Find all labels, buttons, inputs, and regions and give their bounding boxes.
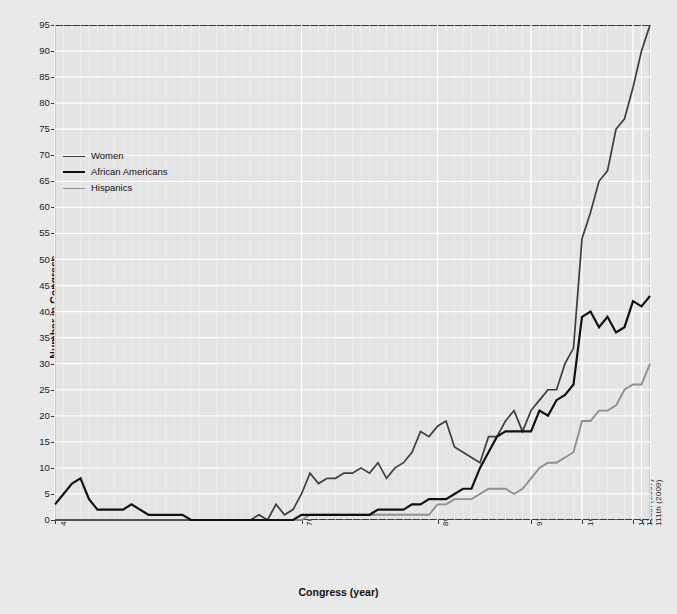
legend-swatch-icon: [63, 188, 85, 189]
plot-area: [55, 25, 650, 520]
y-tick-label: 85: [24, 72, 50, 82]
legend-label: Women: [91, 151, 124, 161]
x-tick-mark: [650, 520, 651, 524]
y-tick-label: 60: [24, 202, 50, 212]
legend-label: Hispanics: [91, 183, 132, 193]
y-tick-label: 35: [24, 333, 50, 343]
data-lines: [55, 25, 650, 520]
y-tick-label: 55: [24, 228, 50, 238]
y-tick-label: 20: [24, 411, 50, 421]
y-tick-label: 65: [24, 176, 50, 186]
legend-entry: Hispanics: [63, 180, 168, 196]
x-tick-mark: [438, 520, 439, 524]
y-tick-label: 40: [24, 307, 50, 317]
y-tick-label: 10: [24, 463, 50, 473]
x-tick-mark: [642, 520, 643, 524]
y-tick-label: 70: [24, 150, 50, 160]
x-tick-mark: [531, 520, 532, 524]
legend-entry: African Americans: [63, 164, 168, 180]
legend-entry: Women: [63, 148, 168, 164]
y-tick-label: 45: [24, 281, 50, 291]
y-tick-label: 50: [24, 255, 50, 265]
legend-swatch-icon: [63, 171, 85, 173]
x-tick-label: 111th (2009): [654, 479, 663, 526]
chart-figure: Number in Congress 051015202530354045505…: [0, 0, 677, 614]
x-axis-title: Congress (year): [0, 586, 677, 598]
x-tick-mark: [582, 520, 583, 524]
legend-swatch-icon: [63, 156, 85, 157]
y-tick-label: 15: [24, 437, 50, 447]
y-tick-label: 25: [24, 385, 50, 395]
y-tick-label: 90: [24, 46, 50, 56]
legend-label: African Americans: [91, 167, 168, 177]
y-tick-label: 30: [24, 359, 50, 369]
y-tick-label: 80: [24, 98, 50, 108]
y-tick-label: 75: [24, 124, 50, 134]
x-tick-mark: [633, 520, 634, 524]
y-tick-label: 95: [24, 20, 50, 30]
y-tick-label: 5: [24, 489, 50, 499]
chart-legend: Women African Americans Hispanics: [63, 148, 168, 196]
y-tick-label: 0: [24, 515, 50, 525]
